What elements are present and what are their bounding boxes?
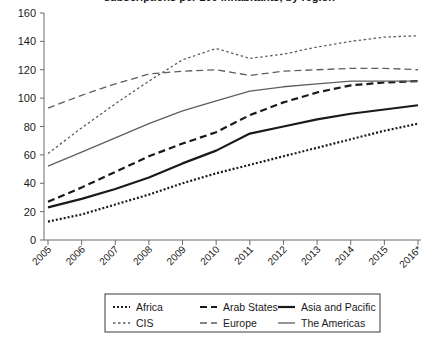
chart-root: subscriptions per 100 inhabitants, by re… <box>0 0 438 349</box>
y-axis-tick-label: 20 <box>24 206 36 218</box>
legend-label: The Americas <box>301 317 365 329</box>
legend-label: Africa <box>136 301 163 313</box>
y-axis-tick-label: 120 <box>18 64 36 76</box>
y-axis-tick-label: 140 <box>18 35 36 47</box>
x-axis-tick-label: 2011 <box>232 243 255 266</box>
series-line-cis <box>48 36 418 154</box>
legend-label: Arab States <box>223 301 278 313</box>
x-axis-tick-label: 2012 <box>265 243 289 267</box>
legend-label: Europe <box>223 317 257 329</box>
y-axis-tick-label: 80 <box>24 121 36 133</box>
x-axis-tick-label: 2010 <box>198 243 222 267</box>
chart-legend: AfricaArab StatesAsia and PacificCISEuro… <box>105 294 380 332</box>
legend-label: Asia and Pacific <box>301 301 376 313</box>
series-lines <box>48 36 418 222</box>
series-line-africa <box>48 124 418 222</box>
y-axis-tick-label: 40 <box>24 177 36 189</box>
x-axis-tick-label: 2015 <box>366 243 390 267</box>
x-axis-tick-label: 2016* <box>397 244 423 270</box>
line-chart: 020406080100120140160 200520062007200820… <box>0 0 438 349</box>
y-axis-tick-label: 160 <box>18 7 36 19</box>
chart-title-clipped: subscriptions per 100 inhabitants, by re… <box>0 0 438 7</box>
x-axis-tick-label: 2014 <box>333 243 357 267</box>
y-axis: 020406080100120140160 <box>18 7 44 246</box>
x-axis: 2005200620072008200920102011201220132014… <box>30 240 424 270</box>
series-line-asia-and-pacific <box>48 105 418 207</box>
x-axis-tick-label: 2005 <box>30 243 54 267</box>
series-line-europe <box>48 68 418 108</box>
legend-label: CIS <box>136 317 154 329</box>
y-axis-tick-label: 100 <box>18 92 36 104</box>
x-axis-tick-label: 2009 <box>164 243 188 267</box>
chart-title-text: subscriptions per 100 inhabitants, by re… <box>104 0 335 3</box>
x-axis-tick-label: 2007 <box>97 243 121 267</box>
x-axis-tick-label: 2006 <box>64 243 88 267</box>
y-axis-tick-label: 0 <box>30 234 36 246</box>
y-axis-tick-label: 60 <box>24 149 36 161</box>
x-axis-tick-label: 2008 <box>131 243 155 267</box>
x-axis-tick-label: 2013 <box>299 243 323 267</box>
